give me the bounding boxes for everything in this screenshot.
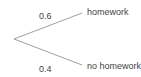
- outcome-lower: no homework: [87, 61, 141, 71]
- outcome-upper: homework: [87, 7, 129, 17]
- branch-lower-line: [14, 39, 82, 65]
- probability-lower: 0.4: [39, 64, 52, 74]
- probability-upper: 0.6: [39, 11, 52, 21]
